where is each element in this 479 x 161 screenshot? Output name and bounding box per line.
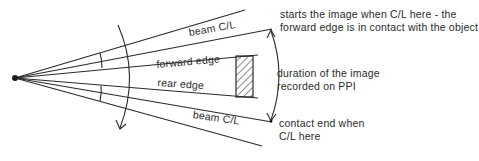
target-object xyxy=(236,56,253,97)
duration-annotation-line2: recorded on PPI xyxy=(277,80,356,93)
sweep-direction-arc xyxy=(118,25,130,128)
duration-arrow-top-icon xyxy=(267,30,275,38)
forward-edge-line xyxy=(15,55,258,78)
upper-beam-centerline xyxy=(15,29,272,78)
upper-beam-width-arc xyxy=(100,53,102,68)
contact-end-annotation-line2: C/L here xyxy=(279,130,320,143)
duration-annotation-line1: duration of the image xyxy=(277,67,380,80)
contact-end-annotation-line1: contact end when xyxy=(279,117,365,130)
upper-beam-edge-line xyxy=(15,10,245,78)
starts-image-annotation-line2: forward edge is in contact with the obje… xyxy=(280,21,478,34)
lower-beam-width-arc xyxy=(100,86,101,101)
radar-origin-dot xyxy=(12,75,18,81)
contact-point-dot xyxy=(270,120,273,123)
starts-image-annotation-line1: starts the image when C/L here - the xyxy=(280,8,457,21)
